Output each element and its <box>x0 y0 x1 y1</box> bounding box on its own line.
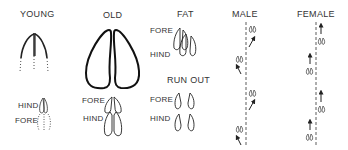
male-track <box>236 22 255 146</box>
female-arrow-icon <box>310 25 321 130</box>
young-hind-fore-prints-icon <box>38 98 51 130</box>
old-print-icon <box>86 30 139 88</box>
old-fore-hind-prints-icon <box>104 97 121 136</box>
female-track <box>306 22 324 146</box>
female-print-icon <box>306 38 324 140</box>
fat-prints-icon <box>174 28 196 56</box>
runout-prints-icon <box>175 93 194 131</box>
hoofprint-diagram <box>0 0 348 150</box>
young-print-icon <box>20 33 48 72</box>
